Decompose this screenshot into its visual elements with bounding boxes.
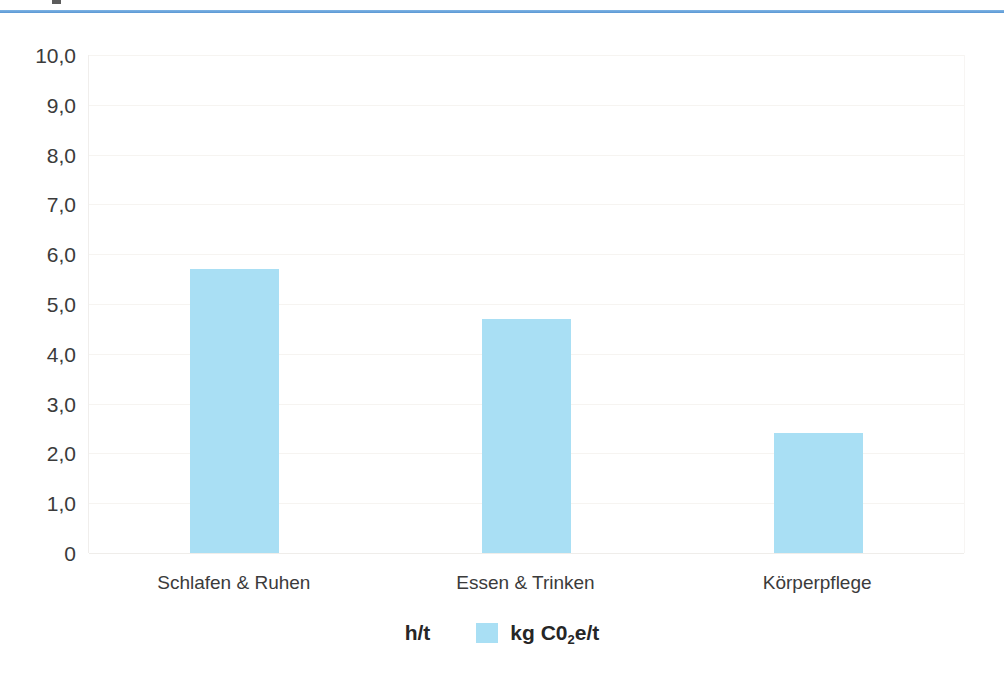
legend-entry[interactable]: kg C02e/t [476, 621, 599, 645]
gridline [89, 55, 964, 56]
y-axis-tick-label: 8,0 [0, 144, 76, 165]
y-axis-tick-label: 10,0 [0, 45, 76, 66]
gridline [89, 155, 964, 156]
x-axis-tick-label: Essen & Trinken [456, 569, 594, 597]
gridline [89, 204, 964, 205]
y-axis-tick-label: 7,0 [0, 194, 76, 215]
y-axis-tick-label: 0 [0, 543, 76, 564]
bar [190, 269, 279, 553]
x-axis-tick-label: Schlafen & Ruhen [157, 569, 310, 597]
y-axis: 10,09,08,07,06,05,04,03,02,01,00 [0, 55, 76, 553]
plot-area [88, 55, 965, 553]
legend-swatch-icon [476, 623, 498, 643]
y-axis-tick-label: 6,0 [0, 244, 76, 265]
gridline [89, 254, 964, 255]
y-axis-tick-label: 9,0 [0, 94, 76, 115]
cropped-heading-descender [52, 0, 61, 4]
y-axis-tick-label: 5,0 [0, 294, 76, 315]
legend-label: kg C02e/t [510, 621, 599, 645]
y-axis-tick-label: 2,0 [0, 443, 76, 464]
x-axis-tick-label: Körperpflege [763, 569, 872, 597]
bar [774, 433, 863, 553]
gridline [89, 105, 964, 106]
y-axis-tick-label: 3,0 [0, 393, 76, 414]
y-axis-tick-label: 1,0 [0, 493, 76, 514]
bar [482, 319, 571, 553]
legend-label: h/t [405, 621, 431, 645]
legend-entry[interactable]: h/t [405, 621, 431, 645]
chart-legend: h/tkg C02e/t [0, 621, 1004, 645]
bar-chart: 10,09,08,07,06,05,04,03,02,01,00 Schlafe… [0, 13, 1004, 675]
y-axis-tick-label: 4,0 [0, 343, 76, 364]
gridline [89, 553, 964, 554]
x-axis: Schlafen & RuhenEssen & TrinkenKörperpfl… [88, 569, 965, 603]
